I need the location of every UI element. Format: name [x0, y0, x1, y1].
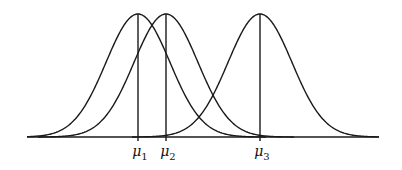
- curves-group: [27, 14, 379, 137]
- normal-distributions-figure: [0, 0, 402, 170]
- mu2-label: μ2: [160, 143, 175, 162]
- mu3-label: μ3: [254, 143, 269, 162]
- distribution-3-curve: [132, 14, 379, 137]
- mu1-label: μ1: [132, 143, 147, 162]
- distribution-1-curve: [27, 14, 266, 137]
